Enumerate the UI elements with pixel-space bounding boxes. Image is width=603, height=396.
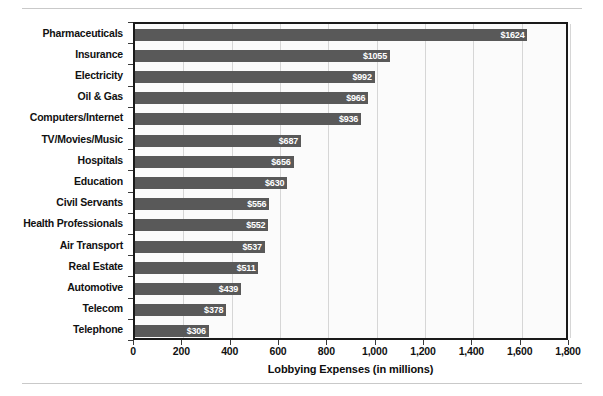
bar-row[interactable]: $1055: [135, 50, 390, 62]
bar-value-label: $439: [219, 283, 238, 295]
bar[interactable]: $630: [135, 177, 287, 189]
x-axis-tick-label: 200: [173, 345, 190, 357]
bar-value-label: $537: [243, 241, 262, 253]
bar[interactable]: $936: [135, 113, 361, 125]
y-axis-label: Air Transport: [60, 239, 123, 251]
x-axis-tick-label: 1,400: [459, 345, 484, 357]
x-axis-tick-label: 800: [318, 345, 335, 357]
y-axis-label: Real Estate: [69, 260, 123, 272]
y-axis-label: Education: [74, 175, 123, 187]
bar-row[interactable]: $378: [135, 304, 226, 316]
bar-row[interactable]: $936: [135, 113, 361, 125]
x-axis-tick-label: 600: [270, 345, 287, 357]
x-axis-tick-labels: 02004006008001,0001,2001,4001,6001,800: [133, 345, 568, 361]
bar[interactable]: $552: [135, 219, 268, 231]
bottom-divider-rule: [22, 383, 582, 384]
bar-value-label: $936: [339, 113, 358, 125]
y-axis-label: Automotive: [67, 281, 123, 293]
bar-row[interactable]: $439: [135, 283, 241, 295]
bar[interactable]: $306: [135, 325, 209, 337]
bar-row[interactable]: $511: [135, 262, 258, 274]
y-axis-label: Insurance: [75, 48, 123, 60]
bar-row[interactable]: $992: [135, 71, 375, 83]
y-axis-label: Telephone: [73, 323, 123, 335]
plot-area: $1624$1055$992$966$936$687$656$630$556$5…: [133, 22, 568, 340]
bar-value-label: $511: [237, 262, 256, 274]
bar-value-label: $552: [246, 219, 265, 231]
x-axis-tick-label: 0: [130, 345, 136, 357]
y-axis-label: Civil Servants: [56, 196, 123, 208]
bar-row[interactable]: $1624: [135, 29, 527, 41]
y-axis-category-labels: PharmaceuticalsInsuranceElectricityOil &…: [0, 22, 129, 340]
y-axis-label: Pharmaceuticals: [43, 27, 123, 39]
y-axis-label: Telecom: [83, 302, 123, 314]
bar-value-label: $1624: [500, 29, 524, 41]
bar-row[interactable]: $537: [135, 241, 265, 253]
x-axis-tick-label: 400: [221, 345, 238, 357]
y-axis-label: Electricity: [75, 69, 123, 81]
bar-value-label: $378: [204, 304, 223, 316]
x-axis-tick-label: 1,800: [555, 345, 580, 357]
y-axis-label: Computers/Internet: [30, 111, 123, 123]
y-axis-label: TV/Movies/Music: [41, 133, 123, 145]
bar[interactable]: $992: [135, 71, 375, 83]
gridline: [570, 24, 571, 338]
bar-value-label: $556: [247, 198, 266, 210]
bar[interactable]: $511: [135, 262, 258, 274]
x-axis-tick-label: 1,200: [410, 345, 435, 357]
bar-row[interactable]: $556: [135, 198, 269, 210]
bar-value-label: $656: [271, 156, 290, 168]
bar[interactable]: $966: [135, 92, 368, 104]
bar-row[interactable]: $966: [135, 92, 368, 104]
x-axis-title: Lobbying Expenses (in millions): [133, 363, 568, 375]
bar[interactable]: $656: [135, 156, 294, 168]
bar[interactable]: $537: [135, 241, 265, 253]
bar-row[interactable]: $630: [135, 177, 287, 189]
bar-value-label: $966: [346, 92, 365, 104]
bar[interactable]: $439: [135, 283, 241, 295]
bar[interactable]: $687: [135, 135, 301, 147]
bar[interactable]: $378: [135, 304, 226, 316]
top-divider-rule: [22, 8, 582, 9]
x-axis-tick-label: 1,000: [362, 345, 387, 357]
bar-value-label: $630: [265, 177, 284, 189]
bar-value-label: $687: [279, 135, 298, 147]
bars-layer: $1624$1055$992$966$936$687$656$630$556$5…: [135, 24, 566, 338]
bar[interactable]: $1624: [135, 29, 527, 41]
bar-row[interactable]: $552: [135, 219, 268, 231]
y-axis-label: Oil & Gas: [78, 90, 123, 102]
bar-row[interactable]: $687: [135, 135, 301, 147]
y-axis-label: Health Professionals: [23, 217, 123, 229]
bar[interactable]: $556: [135, 198, 269, 210]
y-axis-label: Hospitals: [78, 154, 123, 166]
bar-value-label: $1055: [363, 50, 387, 62]
bar[interactable]: $1055: [135, 50, 390, 62]
bar-value-label: $306: [187, 325, 206, 337]
bar-value-label: $992: [352, 71, 371, 83]
bar-row[interactable]: $306: [135, 325, 209, 337]
bar-row[interactable]: $656: [135, 156, 294, 168]
x-axis-tick-label: 1,600: [507, 345, 532, 357]
chart-figure: PharmaceuticalsInsuranceElectricityOil &…: [0, 0, 603, 396]
